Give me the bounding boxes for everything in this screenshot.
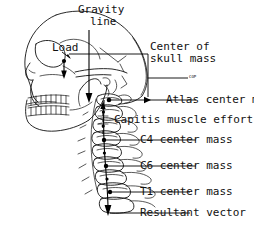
cop-label: COP <box>189 75 196 79</box>
capitis-muscle-effort-label: Capitis muscle effort <box>114 114 253 126</box>
resultant-vector-label: Resultant vector <box>140 207 246 219</box>
biomechanics-figure: Gravity line Load Center of skull mass C… <box>0 0 254 227</box>
c6-center-mass-label: C6 center mass <box>140 160 233 172</box>
load-label: Load <box>52 42 79 54</box>
center-of-skull-mass-label-2: skull mass <box>150 53 216 65</box>
load-vector <box>61 52 71 79</box>
gravity-line-label-2: line <box>90 16 117 28</box>
skull-lateral-icon <box>25 11 147 104</box>
atlas-center-mass-label: Atlas center mass <box>166 94 254 106</box>
gravity-line-vector <box>86 30 93 103</box>
t1-center-mass-label: T1 center mass <box>140 186 233 198</box>
c4-center-mass-label: C4 center mass <box>140 134 233 146</box>
